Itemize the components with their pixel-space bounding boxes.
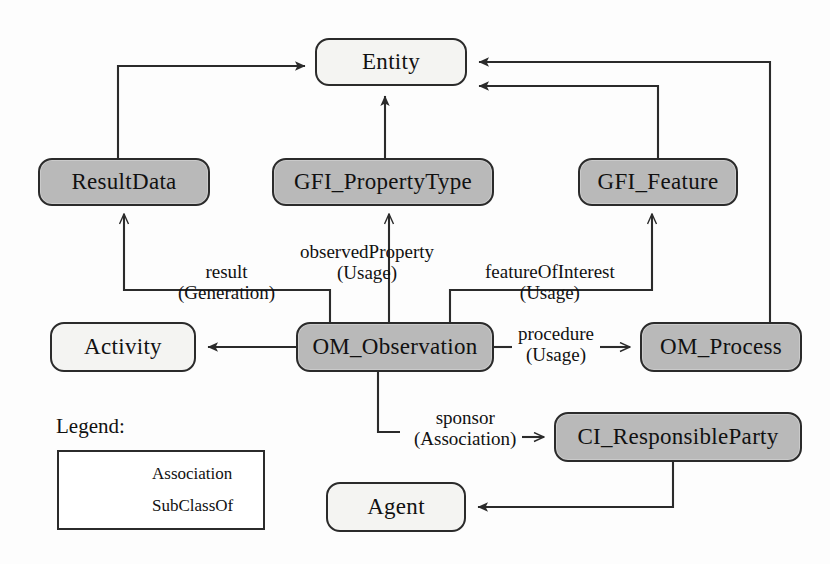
edge-label-observed-property-name: observedProperty xyxy=(300,242,434,263)
edge-label-procedure-kind: (Usage) xyxy=(518,345,594,366)
node-gfi-feature[interactable]: GFI_Feature xyxy=(578,158,738,206)
node-ci-responsible-party[interactable]: CI_ResponsibleParty xyxy=(554,412,802,462)
node-gfi-property-type-label: GFI_PropertyType xyxy=(294,169,472,195)
edge-label-result-kind: (Generation) xyxy=(178,283,275,304)
edge-label-result-name: result xyxy=(178,262,275,283)
node-gfi-feature-label: GFI_Feature xyxy=(598,169,719,195)
edge-label-observed-property-kind: (Usage) xyxy=(300,263,434,284)
edge-responsible-agent xyxy=(478,462,673,507)
edge-label-observed-property: observedProperty (Usage) xyxy=(300,242,434,283)
edge-observation-responsible-a xyxy=(378,372,400,432)
node-gfi-property-type[interactable]: GFI_PropertyType xyxy=(272,158,494,206)
edge-resultdata-entity xyxy=(118,66,305,158)
node-om-process[interactable]: OM_Process xyxy=(640,322,802,372)
node-activity[interactable]: Activity xyxy=(50,322,196,372)
node-agent[interactable]: Agent xyxy=(326,482,466,532)
node-activity-label: Activity xyxy=(84,334,162,360)
edge-label-feature-of-interest-kind: (Usage) xyxy=(485,283,615,304)
legend-label-association: Association xyxy=(152,464,232,484)
node-ci-responsible-party-label: CI_ResponsibleParty xyxy=(577,424,778,450)
edge-label-result: result (Generation) xyxy=(178,262,275,303)
edge-label-sponsor-kind: (Association) xyxy=(414,429,516,450)
legend-label-subclassof: SubClassOf xyxy=(152,496,233,516)
legend-row-subclassof: SubClassOf xyxy=(152,496,233,516)
legend-row-association: Association xyxy=(152,464,232,484)
node-om-observation[interactable]: OM_Observation xyxy=(296,322,494,372)
legend-title: Legend: xyxy=(56,414,125,439)
node-result-data[interactable]: ResultData xyxy=(38,158,210,206)
node-om-observation-label: OM_Observation xyxy=(312,334,477,360)
edge-label-feature-of-interest: featureOfInterest (Usage) xyxy=(485,262,615,303)
node-om-process-label: OM_Process xyxy=(660,334,782,360)
edge-label-sponsor-name: sponsor xyxy=(414,408,516,429)
node-entity-label: Entity xyxy=(362,49,420,75)
edge-label-feature-of-interest-name: featureOfInterest xyxy=(485,262,615,283)
node-agent-label: Agent xyxy=(367,494,425,520)
edge-label-procedure: procedure (Usage) xyxy=(518,324,594,365)
edge-gfifeature-entity xyxy=(479,86,658,158)
diagram-canvas: Entity ResultData GFI_PropertyType GFI_F… xyxy=(0,0,830,564)
edge-label-sponsor: sponsor (Association) xyxy=(414,408,516,449)
legend-box xyxy=(57,450,265,530)
edge-label-procedure-name: procedure xyxy=(518,324,594,345)
node-result-data-label: ResultData xyxy=(71,169,176,195)
node-entity[interactable]: Entity xyxy=(315,38,467,86)
